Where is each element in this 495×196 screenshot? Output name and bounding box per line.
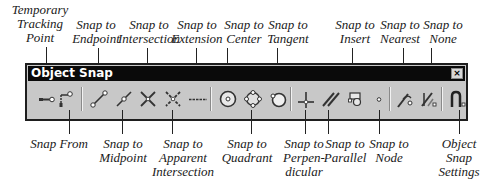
snap-to-perpendicular-button[interactable] [295, 87, 317, 111]
callout-line: Parallel [322, 151, 368, 165]
callout-line: Object [434, 137, 484, 151]
callout-line: Node [366, 151, 412, 165]
separator [441, 87, 443, 111]
callout-line: Settings [434, 165, 484, 179]
callout-line: dicular [276, 165, 332, 179]
snap-to-endpoint-button[interactable] [88, 87, 110, 111]
callout-line: Snap to [366, 137, 412, 151]
leader-line [69, 110, 70, 134]
callout-apparent-intersection: Snap to Apparent Intersection [148, 137, 218, 179]
snap-to-quadrant-button[interactable] [242, 87, 264, 111]
snap-to-insert-button[interactable] [344, 87, 366, 111]
callout-line: Snap to [148, 137, 218, 151]
separator [210, 87, 212, 111]
leader-line [172, 110, 173, 134]
callout-line: Snap to [262, 18, 314, 32]
leader-line [122, 110, 123, 134]
endpoint-icon [88, 87, 110, 111]
callout-line: Snap From [26, 137, 92, 151]
snap-to-apparent-intersection-button[interactable] [162, 87, 184, 111]
close-icon: × [453, 68, 461, 78]
toolbar-title: Object Snap [31, 66, 113, 81]
snap-to-extension-button[interactable] [187, 87, 209, 111]
callout-midpoint: Snap to Midpoint [96, 137, 150, 165]
toolbar-titlebar[interactable]: Object Snap × [28, 66, 465, 81]
none-icon [418, 87, 440, 111]
callout-line: Tangent [262, 32, 314, 46]
callout-line: Quadrant [218, 151, 276, 165]
perpendicular-icon [295, 87, 317, 111]
leader-line [379, 110, 380, 134]
quadrant-icon [242, 87, 264, 111]
callout-line: Temporary [2, 3, 78, 17]
callout-line: Snap to [322, 137, 368, 151]
snap-from-icon [54, 87, 76, 111]
snap-to-nearest-button[interactable] [394, 87, 416, 111]
callout-line: Snap to [330, 18, 380, 32]
callout-node: Snap to Node [366, 137, 412, 165]
snap-to-intersection-button[interactable] [137, 87, 159, 111]
separator [290, 87, 292, 111]
snap-to-midpoint-button[interactable] [113, 87, 135, 111]
node-icon [368, 87, 390, 111]
leader-line [328, 110, 329, 134]
callout-parallel: Snap to Parallel [322, 137, 368, 165]
snap-to-center-button[interactable] [217, 87, 239, 111]
callout-line: Snap to [218, 137, 276, 151]
osnap-settings-icon [447, 87, 469, 111]
snap-to-parallel-button[interactable] [320, 87, 342, 111]
callout-line: Snap to [417, 18, 469, 32]
callout-line: Intersection [148, 165, 218, 179]
snap-from-button[interactable] [54, 87, 76, 111]
extension-icon [187, 87, 209, 111]
parallel-icon [320, 87, 342, 111]
insert-icon [344, 87, 366, 111]
leader-line [305, 110, 306, 134]
callout-quadrant: Snap to Quadrant [218, 137, 276, 165]
tangent-icon [267, 87, 289, 111]
object-snap-toolbar: Object Snap × [25, 63, 468, 121]
callout-snap-from: Snap From [26, 137, 92, 151]
callout-line: Apparent [148, 151, 218, 165]
callout-line: Insert [330, 32, 380, 46]
leader-line [251, 110, 252, 134]
separator [81, 87, 83, 111]
leader-line [459, 110, 460, 134]
apparent-intersection-icon [162, 87, 184, 111]
callout-none: Snap to None [417, 18, 469, 46]
callout-tangent: Snap to Tangent [262, 18, 314, 46]
center-icon [217, 87, 239, 111]
separator [389, 87, 391, 111]
callout-line: Midpoint [96, 151, 150, 165]
snap-to-none-button[interactable] [418, 87, 440, 111]
callout-object-snap-settings: Object Snap Settings [434, 137, 484, 179]
midpoint-icon [113, 87, 135, 111]
snap-to-node-button[interactable] [368, 87, 390, 111]
nearest-icon [394, 87, 416, 111]
callout-line: Snap [434, 151, 484, 165]
callout-line: None [417, 32, 469, 46]
callout-insert: Snap to Insert [330, 18, 380, 46]
close-button[interactable]: × [451, 68, 463, 79]
snap-to-tangent-button[interactable] [267, 87, 289, 111]
intersection-icon [137, 87, 159, 111]
object-snap-settings-button[interactable] [447, 87, 469, 111]
callout-line: Snap to [96, 137, 150, 151]
